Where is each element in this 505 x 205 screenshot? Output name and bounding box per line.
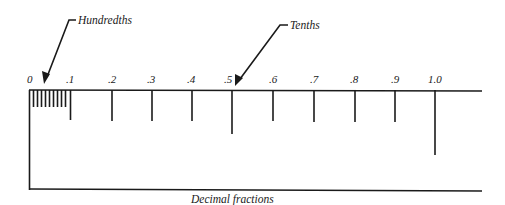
tick-label-9: .9: [391, 73, 400, 85]
tenths-ticks: [71, 90, 436, 155]
ruler-top-line: [29, 90, 482, 91]
tick-labels: 0 .1 .2 .3 .4 .5 .6 .7 .8 .9 1.0: [27, 73, 442, 85]
hundredths-ticks: [34, 90, 66, 107]
tenths-arrow-line: [240, 25, 288, 79]
diagram-caption: Decimal fractions: [190, 193, 274, 205]
tenths-callout: Tenths: [235, 19, 320, 86]
hundredths-label: Hundredths: [77, 14, 132, 26]
ruler-bottom-line: [29, 189, 482, 191]
tick-label-4: .4: [187, 73, 196, 85]
tick-label-3: .3: [147, 73, 156, 85]
tick-label-1: .1: [66, 73, 74, 85]
tick-label-5: .5: [224, 73, 233, 85]
tick-label-7: .7: [310, 73, 319, 85]
decimal-ruler-diagram: 0 .1 .2 .3 .4 .5 .6 .7 .8 .9 1.0 Hundred…: [0, 0, 505, 205]
tick-label-0: 0: [27, 73, 33, 85]
tick-label-10: 1.0: [428, 73, 442, 85]
tenths-label: Tenths: [290, 19, 320, 31]
tick-label-6: .6: [269, 73, 278, 85]
tick-label-2: .2: [108, 73, 117, 85]
hundredths-callout: Hundredths: [42, 14, 132, 84]
tick-label-8: .8: [350, 73, 359, 85]
hundredths-arrow-line: [47, 20, 76, 77]
